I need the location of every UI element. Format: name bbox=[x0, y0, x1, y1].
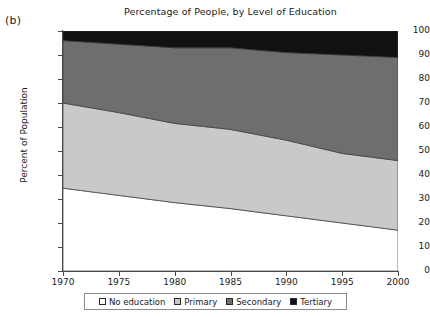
legend-item[interactable]: Secondary bbox=[226, 297, 281, 307]
x-tick-mark bbox=[119, 272, 120, 276]
legend-label: No education bbox=[109, 297, 165, 307]
legend-swatch-icon bbox=[290, 298, 297, 305]
x-tick-mark bbox=[286, 272, 287, 276]
x-tick-label: 1980 bbox=[155, 277, 195, 287]
x-axis-line bbox=[62, 271, 399, 272]
x-tick-label: 1995 bbox=[322, 277, 362, 287]
legend-swatch-icon bbox=[99, 298, 106, 305]
x-tick-label: 1970 bbox=[43, 277, 83, 287]
legend-label: Secondary bbox=[236, 297, 281, 307]
x-tick-mark bbox=[231, 272, 232, 276]
x-tick-label: 1985 bbox=[211, 277, 251, 287]
chart-title: Percentage of People, by Level of Educat… bbox=[63, 6, 398, 17]
legend-swatch-icon bbox=[174, 298, 181, 305]
legend-label: Tertiary bbox=[300, 297, 332, 307]
x-tick-label: 1990 bbox=[266, 277, 306, 287]
y-axis-label: Percent of Population bbox=[19, 65, 29, 205]
chart-figure: (b) Percentage of People, by Level of Ed… bbox=[0, 0, 430, 317]
legend-swatch-icon bbox=[226, 298, 233, 305]
legend-label: Primary bbox=[184, 297, 217, 307]
x-tick-label: 2000 bbox=[378, 277, 418, 287]
x-tick-mark bbox=[342, 272, 343, 276]
chart-legend: No educationPrimarySecondaryTertiary bbox=[84, 293, 347, 310]
legend-item[interactable]: Primary bbox=[174, 297, 217, 307]
plot-area bbox=[63, 31, 398, 271]
legend-item[interactable]: Tertiary bbox=[290, 297, 332, 307]
x-tick-mark bbox=[63, 272, 64, 276]
legend-item[interactable]: No education bbox=[99, 297, 165, 307]
panel-label: (b) bbox=[5, 14, 21, 27]
x-tick-label: 1975 bbox=[99, 277, 139, 287]
stacked-area-svg bbox=[63, 31, 398, 271]
x-tick-mark bbox=[398, 272, 399, 276]
x-tick-mark bbox=[175, 272, 176, 276]
